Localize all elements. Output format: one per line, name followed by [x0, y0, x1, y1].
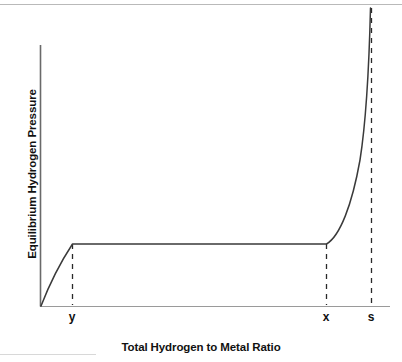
- plot-area: [0, 0, 402, 362]
- x-axis-title: Total Hydrogen to Metal Ratio: [0, 341, 402, 353]
- x-tick-label-y: y: [60, 310, 84, 324]
- y-axis-title: Equilibrium Hydrogen Pressure: [26, 79, 38, 269]
- x-tick-label-x: x: [314, 310, 338, 324]
- isotherm-curve: [41, 8, 371, 306]
- chart-figure: Equilibrium Hydrogen Pressure Total Hydr…: [0, 0, 402, 362]
- x-tick-label-s: s: [359, 310, 383, 324]
